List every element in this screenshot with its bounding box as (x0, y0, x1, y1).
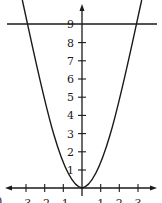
y-tick-labels: 1 2 3 4 5 6 7 8 9 (67, 18, 74, 177)
x-label-1: 1 (97, 197, 104, 203)
y-axis-arrow-icon (80, 4, 85, 11)
parabola-chart: 1 2 3 4 5 6 7 8 9 -3 -2 -1 1 2 3 ) (0, 0, 162, 203)
x-axis-left-arrow-icon (5, 186, 12, 191)
y-label-8: 8 (67, 37, 74, 50)
y-label-1: 1 (67, 164, 74, 177)
x-label-neg2: -2 (39, 197, 50, 203)
y-label-3: 3 (67, 128, 74, 141)
x-label-neg1: -1 (58, 197, 69, 203)
y-label-6: 6 (67, 73, 74, 86)
y-label-9: 9 (67, 18, 74, 31)
x-label-neg3: -3 (21, 197, 32, 203)
x-axis-right-arrow-icon (150, 186, 157, 191)
x-tick-labels: -3 -2 -1 1 2 3 (21, 197, 142, 203)
corner-paren-label: ) (0, 195, 2, 203)
y-label-4: 4 (67, 109, 74, 122)
x-label-3: 3 (135, 197, 142, 203)
y-label-2: 2 (67, 146, 74, 159)
y-label-7: 7 (67, 55, 74, 68)
x-label-2: 2 (116, 197, 123, 203)
y-label-5: 5 (67, 91, 74, 104)
